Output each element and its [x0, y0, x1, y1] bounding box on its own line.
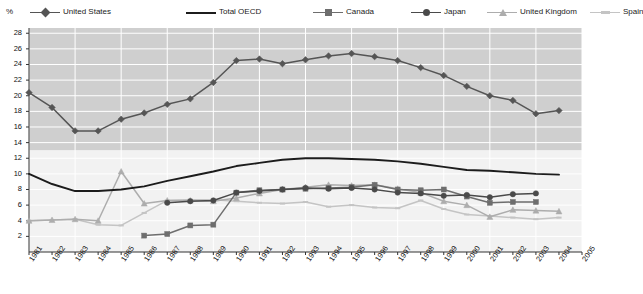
data-point-circle	[211, 198, 216, 203]
legend-swatch-tri-icon	[487, 7, 517, 17]
data-point-square	[487, 200, 492, 205]
percent-unit-label: %	[6, 7, 13, 16]
data-point-square	[142, 233, 147, 238]
y-axis-tick-label: 4	[6, 216, 22, 225]
legend-marker-circle-icon	[423, 9, 430, 16]
data-point-circle	[326, 186, 331, 191]
legend-item-japan: Japan	[411, 5, 466, 19]
data-point-square	[188, 223, 193, 228]
legend-item-united-states: United States	[30, 5, 111, 19]
data-point-circle	[418, 191, 423, 196]
data-point-circle	[188, 199, 193, 204]
y-axis-tick-label: 10	[6, 169, 22, 178]
legend-label: Canada	[346, 7, 374, 17]
legend-item-canada: Canada	[313, 5, 374, 19]
y-axis-tick-label: 16	[6, 122, 22, 131]
legend-swatch-dash-icon	[590, 7, 620, 17]
data-point-circle	[510, 191, 515, 196]
data-point-circle	[349, 185, 354, 190]
legend-swatch-square-icon	[313, 7, 343, 17]
data-point-square	[533, 199, 538, 204]
y-axis-tick-label: 14	[6, 138, 22, 147]
legend-marker-dash-icon	[601, 11, 610, 14]
data-point-square	[165, 232, 170, 237]
legend-label: Spain	[623, 7, 643, 17]
data-point-circle	[395, 190, 400, 195]
legend-label: United States	[63, 7, 111, 17]
data-point-circle	[464, 192, 469, 197]
data-point-circle	[372, 187, 377, 192]
y-axis-tick-label: 6	[6, 200, 22, 209]
legend-marker-square-icon	[325, 9, 332, 16]
data-point-circle	[234, 190, 239, 195]
y-axis-tick-label: 24	[6, 59, 22, 68]
data-point-square	[441, 187, 446, 192]
y-axis-tick-label: 8	[6, 184, 22, 193]
legend-swatch-circle-icon	[411, 7, 441, 17]
legend-label: United Kingdom	[520, 7, 577, 17]
y-axis-tick-label: 20	[6, 91, 22, 100]
y-axis-tick-label: 18	[6, 106, 22, 115]
legend-item-total-oecd: Total OECD	[186, 5, 261, 19]
y-axis-tick-label: 26	[6, 44, 22, 53]
data-point-circle	[533, 191, 538, 196]
data-point-circle	[165, 200, 170, 205]
legend-label: Total OECD	[219, 7, 261, 17]
legend-swatch-none-icon	[186, 7, 216, 17]
y-axis-tick-label: 2	[6, 231, 22, 240]
data-point-circle	[487, 195, 492, 200]
data-point-square	[211, 222, 216, 227]
legend-marker-diamond-icon	[41, 7, 51, 17]
data-point-circle	[303, 185, 308, 190]
y-axis-tick-label: 22	[6, 75, 22, 84]
legend-swatch-diamond-icon	[30, 7, 60, 17]
legend-item-spain: Spain	[590, 5, 643, 19]
y-axis-tick-label: 28	[6, 28, 22, 37]
legend-marker-tri-icon	[499, 9, 507, 16]
data-point-square	[510, 199, 515, 204]
legend-label: Japan	[444, 7, 466, 17]
legend-line-icon	[186, 12, 216, 14]
legend-item-united-kingdom: United Kingdom	[487, 5, 577, 19]
data-point-circle	[441, 193, 446, 198]
data-point-circle	[257, 188, 262, 193]
y-axis-tick-label: 12	[6, 153, 22, 162]
data-point-circle	[280, 187, 285, 192]
chart-legend: % United StatesTotal OECDCanadaJapanUnit…	[0, 0, 606, 24]
